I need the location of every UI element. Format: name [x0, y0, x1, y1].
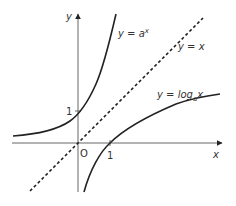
identity-label: y = x	[177, 41, 205, 52]
origin-label: O	[80, 148, 88, 159]
function-graph: y x O 1 1 y = ax y = x y = logax	[0, 0, 236, 206]
logarithm-label: y = logax	[156, 89, 203, 103]
exponential-curve	[13, 14, 116, 136]
y-axis-label: y	[65, 11, 73, 22]
x-axis-label: x	[212, 149, 219, 160]
exponential-label: y = ax	[117, 27, 150, 39]
y-tick-label: 1	[66, 106, 72, 117]
x-tick-label: 1	[107, 150, 113, 161]
